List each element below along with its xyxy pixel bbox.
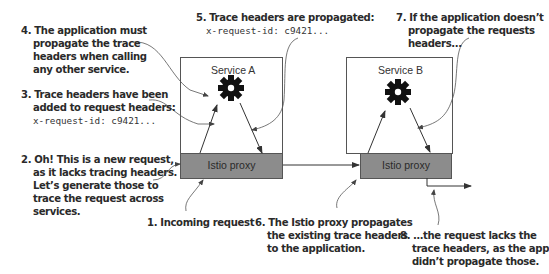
- annotation-number: 4.: [21, 24, 31, 37]
- arrow-proxy-b-outgoing: [427, 178, 471, 186]
- service-a-title: Service A: [211, 64, 255, 76]
- annotation-number: 7.: [396, 11, 406, 24]
- callout-6-leader: [337, 180, 356, 208]
- annotation-2: 2. Oh! This is a new request, as it lack…: [21, 153, 177, 218]
- annotation-7: 7. If the application doesn’t propagate …: [396, 11, 544, 50]
- annotation-4: 4. The application must propagate the tr…: [21, 24, 147, 76]
- annotation-1: 1. Incoming request: [147, 216, 254, 229]
- callout-8-leader: [434, 190, 439, 225]
- annotation-8: 8. …the request lacks the trace headers,…: [400, 229, 549, 268]
- annotation-number: 1.: [147, 216, 157, 229]
- annotation-number: 2.: [21, 153, 31, 166]
- trace-header-code: x-request-id: c9421...: [196, 24, 374, 37]
- callout-1-leader: [186, 180, 203, 211]
- istio-proxy-b-label: Istio proxy: [360, 159, 452, 171]
- annotation-number: 8.: [400, 229, 410, 242]
- annotation-number: 3.: [21, 88, 31, 101]
- istio-proxy-a-label: Istio proxy: [180, 159, 283, 171]
- annotation-number: 5.: [196, 11, 206, 24]
- annotation-3: 3. Trace headers have been added to requ…: [21, 88, 175, 127]
- annotation-6: 6. The Istio proxy propagates the existi…: [255, 216, 412, 255]
- gear-icon: [218, 75, 244, 101]
- annotation-5: 5. Trace headers are propagated: x-reque…: [196, 11, 374, 37]
- trace-header-code: x-request-id: c9421...: [21, 114, 175, 127]
- annotation-number: 6.: [255, 216, 265, 229]
- gear-icon: [385, 79, 411, 105]
- service-b-title: Service B: [378, 64, 423, 76]
